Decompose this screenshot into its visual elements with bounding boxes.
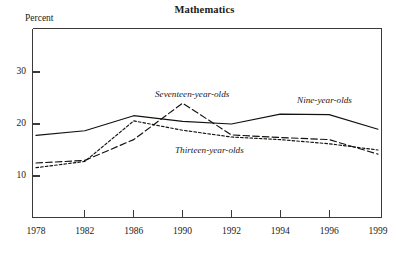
x-tick-label: 1992 xyxy=(211,226,251,236)
series-annotation-thirteen-year-olds: Thirteen-year-olds xyxy=(175,145,244,155)
x-tick-label: 1994 xyxy=(260,226,300,236)
series-annotation-nine-year-olds: Nine-year-olds xyxy=(297,95,352,105)
x-tick-label: 1990 xyxy=(163,226,203,236)
y-tick-label: 20 xyxy=(4,118,26,128)
x-tick-label: 1978 xyxy=(16,226,56,236)
x-tick-label: 1982 xyxy=(65,226,105,236)
x-tick-label: 1996 xyxy=(309,226,349,236)
series-line-nine-year-olds xyxy=(36,114,378,135)
x-tick-label: 1986 xyxy=(114,226,154,236)
y-tick-label: 30 xyxy=(4,66,26,76)
series-annotation-seventeen-year-olds: Seventeen-year-olds xyxy=(155,89,229,99)
series-paths xyxy=(36,103,378,167)
y-tick-label: 10 xyxy=(4,170,26,180)
x-tick-label: 1999 xyxy=(358,226,398,236)
x-tick-marks xyxy=(85,210,329,218)
mathematics-line-chart: Mathematics Percent 102030 1978198219861… xyxy=(0,0,409,253)
plot-area xyxy=(0,0,409,253)
y-tick-marks xyxy=(33,72,41,176)
